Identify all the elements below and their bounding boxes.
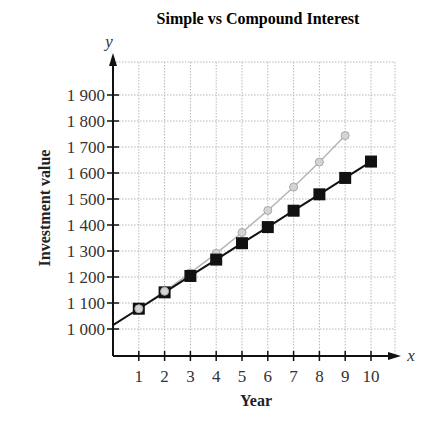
- y-axis-label: Investment value: [36, 150, 53, 267]
- x-tick-label: 1: [135, 367, 144, 386]
- square-marker-icon: [262, 221, 274, 233]
- square-marker-icon: [339, 172, 351, 184]
- y-tick-label: 1 300: [67, 242, 105, 261]
- x-tick-label: 10: [363, 367, 380, 386]
- axes: [109, 53, 401, 360]
- y-tick-label: 1 200: [67, 268, 105, 287]
- square-marker-icon: [288, 205, 300, 217]
- x-tick-label: 6: [264, 367, 273, 386]
- x-tick-label: 5: [238, 367, 247, 386]
- x-tick-label: 4: [212, 367, 221, 386]
- line-chart: Simple vs Compound Interest 1 0001 1001 …: [0, 0, 443, 439]
- y-tick-label: 1 800: [67, 112, 105, 131]
- x-tick-label: 7: [289, 367, 298, 386]
- y-tick-label: 1 000: [67, 320, 105, 339]
- x-tick-label: 3: [186, 367, 195, 386]
- circle-marker-icon: [264, 206, 272, 214]
- square-marker-icon: [210, 254, 222, 266]
- x-axis-label: Year: [240, 392, 272, 409]
- x-tick-label: 2: [160, 367, 169, 386]
- circle-marker-icon: [290, 183, 298, 191]
- data-series: [113, 132, 377, 326]
- square-marker-icon: [365, 156, 377, 168]
- circle-marker-icon: [238, 229, 246, 237]
- grid: [113, 62, 395, 356]
- y-tick-label: 1 500: [67, 190, 105, 209]
- y-variable-label: y: [103, 32, 113, 51]
- y-axis-arrow-icon: [109, 53, 117, 66]
- y-tick-label: 1 600: [67, 164, 105, 183]
- circle-marker-icon: [341, 132, 349, 140]
- simple-interest-series: [113, 156, 377, 326]
- y-axis-ticks: 1 0001 1001 2001 3001 4001 5001 6001 700…: [67, 86, 119, 339]
- y-tick-label: 1 400: [67, 216, 105, 235]
- circle-marker-icon: [161, 287, 169, 295]
- square-marker-icon: [236, 237, 248, 249]
- y-tick-label: 1 900: [67, 86, 105, 105]
- y-tick-label: 1 100: [67, 294, 105, 313]
- chart-title: Simple vs Compound Interest: [157, 10, 361, 28]
- x-variable-label: x: [406, 346, 415, 365]
- x-tick-label: 8: [315, 367, 324, 386]
- x-tick-label: 9: [341, 367, 350, 386]
- y-tick-label: 1 700: [67, 138, 105, 157]
- circle-marker-icon: [135, 305, 143, 313]
- square-marker-icon: [184, 270, 196, 282]
- circle-marker-icon: [315, 158, 323, 166]
- square-marker-icon: [313, 188, 325, 200]
